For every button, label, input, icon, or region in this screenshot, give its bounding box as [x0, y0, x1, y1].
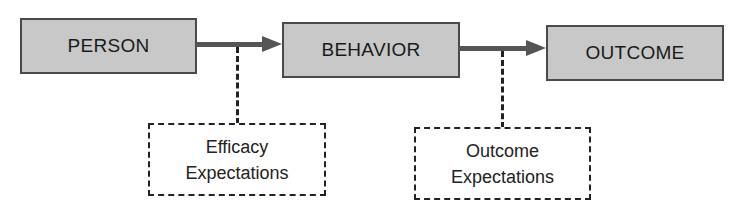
arrowhead-icon [526, 40, 546, 56]
person-to-behavior-arrow [196, 42, 264, 47]
outcome-expectations-box: Outcome Expectations [414, 127, 591, 200]
efficacy-line-1: Efficacy [206, 134, 269, 160]
person-box: PERSON [20, 18, 197, 74]
outcome-expectations-connector [501, 51, 504, 128]
outcome-box: OUTCOME [546, 25, 724, 81]
person-label: PERSON [67, 35, 149, 57]
arrowhead-icon [262, 36, 282, 52]
outcome-label: OUTCOME [585, 42, 684, 64]
outcome-expectations-line-2: Expectations [451, 164, 554, 190]
behavior-label: BEHAVIOR [321, 39, 420, 61]
efficacy-connector [236, 47, 239, 124]
behavior-to-outcome-arrow [459, 46, 527, 51]
outcome-expectations-line-1: Outcome [466, 138, 539, 164]
behavior-box: BEHAVIOR [282, 22, 460, 78]
efficacy-expectations-box: Efficacy Expectations [148, 123, 326, 196]
efficacy-line-2: Expectations [185, 160, 288, 186]
